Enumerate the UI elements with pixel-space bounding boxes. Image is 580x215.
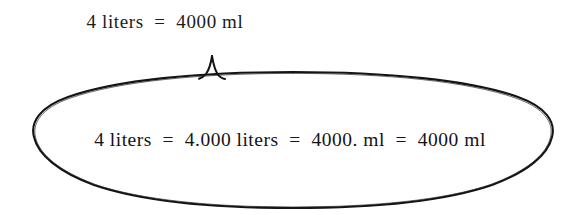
conversion-equation: 4 liters = 4.000 liters = 4000. ml = 400… xyxy=(40,130,540,150)
unit-conversion-figure: 4 liters = 4000 ml 4 liters = 4.000 lite… xyxy=(0,0,580,215)
ellipse-and-pointer-graphic xyxy=(0,0,580,215)
